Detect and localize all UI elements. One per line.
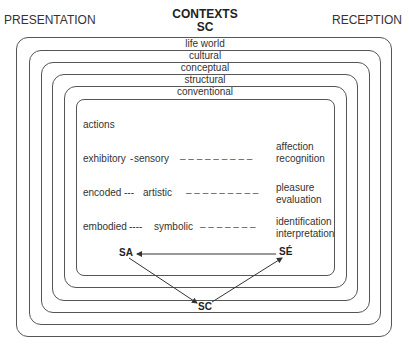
arrow-sc-to-se <box>212 258 282 302</box>
arrow-sa-to-sc <box>129 258 197 303</box>
relation-arrows <box>0 0 409 351</box>
